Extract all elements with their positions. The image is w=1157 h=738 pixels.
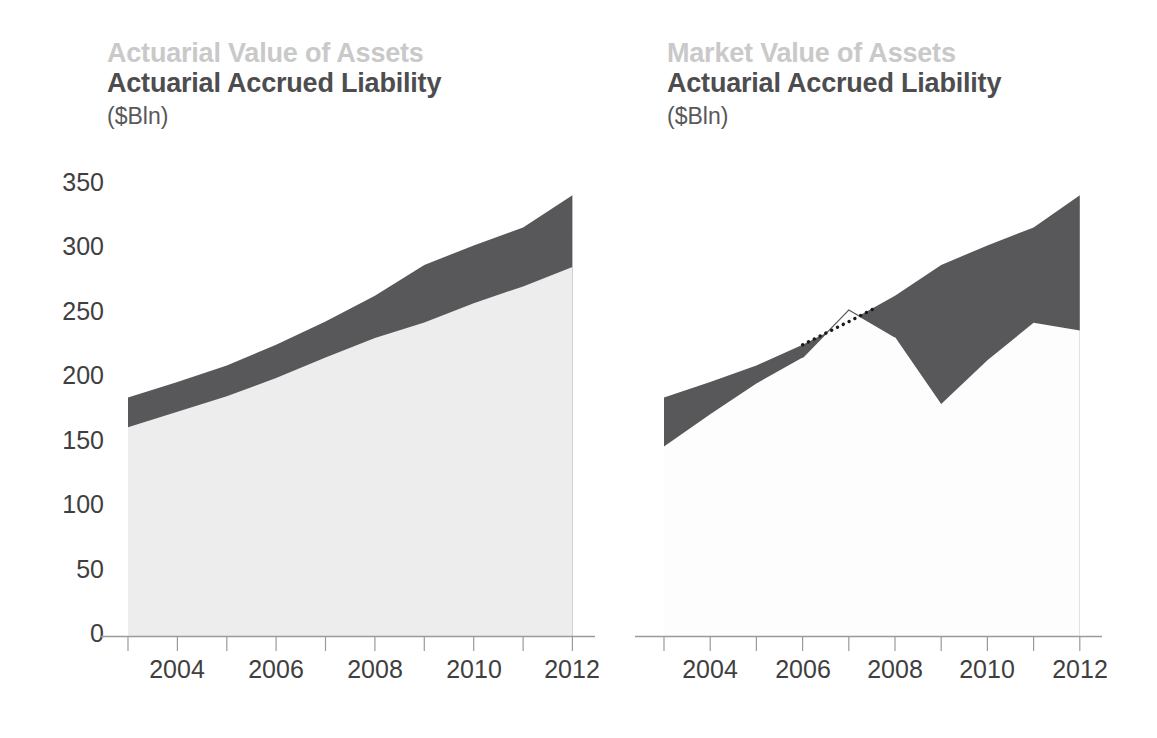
x-tick-label: 2006 — [775, 654, 831, 684]
x-tick-label: 2004 — [149, 654, 205, 684]
x-axis-ticks-left — [128, 637, 572, 651]
x-tick-label: 2012 — [1052, 654, 1108, 684]
x-tick-label: 2004 — [682, 654, 738, 684]
chart-panel-market-value: Market Value of Assets Actuarial Accrued… — [557, 0, 1157, 738]
x-tick-label: 2010 — [959, 654, 1015, 684]
x-axis-ticks-right — [664, 637, 1080, 651]
chart-panel-actuarial-value: Actuarial Value of Assets Actuarial Accr… — [0, 0, 600, 738]
x-tick-label: 2010 — [446, 654, 502, 684]
plot-area-left — [0, 0, 600, 738]
x-tick-label: 2008 — [347, 654, 403, 684]
x-axis-labels-left: 2004 2006 2008 2010 2012 — [0, 654, 600, 694]
figure-root: Actuarial Value of Assets Actuarial Accr… — [0, 0, 1157, 738]
plot-area-right — [557, 0, 1157, 738]
x-tick-label: 2008 — [867, 654, 923, 684]
x-tick-label: 2006 — [248, 654, 304, 684]
area-market-value-of-assets-right — [664, 310, 1080, 636]
x-axis-labels-right: 2004 2006 2008 2010 2012 — [557, 654, 1157, 694]
